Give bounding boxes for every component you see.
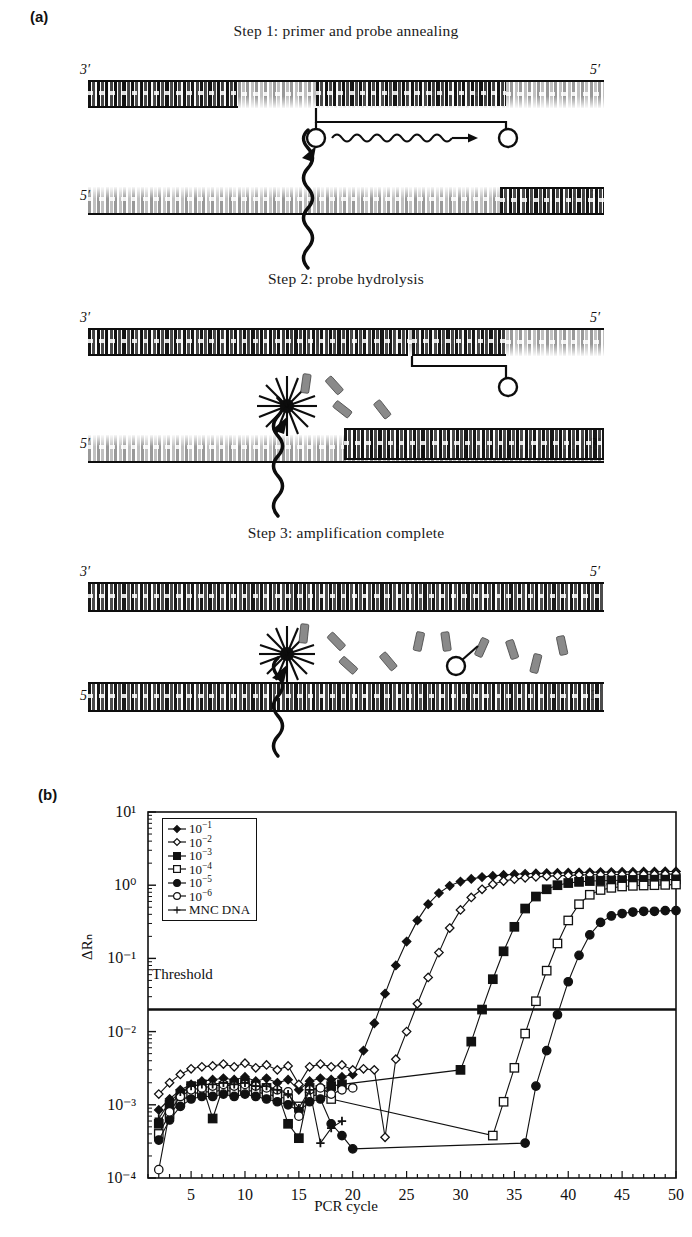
data-point-marker: [155, 1136, 163, 1144]
data-point-marker: [262, 1095, 270, 1103]
data-point-marker: [241, 1059, 249, 1067]
data-point-marker: [230, 1063, 238, 1071]
data-point-marker: [187, 1065, 195, 1073]
step-3-title: Step 3: amplification complete: [0, 524, 692, 542]
data-point-marker: [564, 879, 572, 887]
data-point-marker: [359, 1065, 367, 1073]
data-point-marker: [155, 1165, 163, 1173]
data-point-marker: [198, 1063, 206, 1071]
data-point-marker: [532, 997, 540, 1005]
free-quencher-icon: [447, 646, 478, 675]
data-point-marker: [575, 951, 583, 959]
step-2-title: Step 2: probe hydrolysis: [0, 270, 692, 288]
data-point-marker: [446, 924, 454, 932]
data-point-marker: [553, 939, 561, 947]
data-point-marker: [478, 1005, 486, 1013]
threshold-label: Threshold: [152, 966, 213, 983]
legend-item-7[interactable]: MNC DNA: [167, 903, 250, 917]
data-point-marker: [424, 973, 432, 981]
step-3-canvas: 3′ 5′ 5′ 3′: [0, 542, 692, 757]
data-point-marker: [316, 1139, 324, 1147]
series-legend: 10−110−210−310−410−510−6MNC DNA: [162, 818, 257, 921]
data-point-marker: [316, 1074, 324, 1082]
legend-item-label: 10−6: [187, 890, 212, 903]
data-point-marker: [586, 877, 594, 885]
data-point-marker: [672, 906, 680, 914]
data-point-marker: [273, 1098, 281, 1106]
data-point-marker: [435, 948, 443, 956]
step-1-overlay: [0, 40, 692, 270]
legend-marker-filled-square: [167, 850, 187, 862]
y-tick-label: 10⁻¹: [107, 949, 136, 966]
data-point-marker: [165, 1108, 173, 1116]
data-point-marker: [489, 1131, 497, 1139]
data-point-marker: [370, 1066, 378, 1074]
data-point-marker: [327, 1063, 335, 1071]
series-line: [159, 911, 676, 1149]
data-point-marker: [650, 907, 658, 915]
data-point-marker: [208, 1092, 216, 1100]
step-3-overlay: [0, 542, 692, 757]
data-point-marker: [349, 1145, 357, 1153]
data-point-marker: [230, 1092, 238, 1100]
data-point-marker: [392, 1055, 400, 1063]
plot-canvas: 510152025303540455010⁻⁴10⁻³10⁻²10⁻¹10⁰10…: [0, 770, 692, 1237]
amplification-plot: PCR cycle ΔRₙ Threshold 10−110−210−310−4…: [0, 770, 692, 1237]
data-point-marker: [208, 1114, 216, 1122]
legend-marker-wrap: [167, 890, 187, 902]
data-point-marker: [273, 1066, 281, 1074]
data-point-marker: [456, 877, 464, 885]
data-point-marker: [510, 1064, 518, 1072]
data-point-marker: [639, 881, 647, 889]
y-axis-title: ΔRₙ: [78, 934, 96, 960]
data-point-marker: [532, 892, 540, 900]
data-point-marker: [596, 886, 604, 894]
data-point-marker: [262, 1061, 270, 1069]
data-point-marker: [338, 1117, 346, 1125]
data-point-marker: [542, 885, 550, 893]
data-point-marker: [284, 1120, 292, 1128]
data-point-marker: [521, 1139, 529, 1147]
data-point-marker: [586, 891, 594, 899]
data-point-marker: [219, 1060, 227, 1068]
quencher-dye-icon: [499, 129, 517, 147]
data-point-marker: [381, 1133, 389, 1141]
data-point-marker: [661, 906, 669, 914]
data-point-marker: [629, 882, 637, 890]
data-point-marker: [413, 1000, 421, 1008]
data-point-marker: [219, 1090, 227, 1098]
data-point-marker: [499, 877, 507, 885]
data-point-marker: [262, 1074, 270, 1082]
data-point-marker: [176, 1102, 184, 1110]
data-point-marker: [187, 1095, 195, 1103]
step-1-canvas: 3′ 5′ 5′ 3′: [0, 40, 692, 270]
data-point-marker: [586, 931, 594, 939]
data-point-marker: [542, 966, 550, 974]
data-point-marker: [489, 880, 497, 888]
legend-marker-filled-circle: [167, 877, 187, 889]
legend-exponent: −1: [202, 820, 212, 830]
data-point-marker: [316, 1095, 324, 1103]
legend-marker-wrap: [167, 823, 187, 835]
data-point-marker: [349, 1084, 357, 1092]
data-point-marker: [359, 1046, 367, 1054]
legend-item-label: MNC DNA: [187, 903, 250, 916]
data-point-marker: [338, 1131, 346, 1139]
legend-item-6[interactable]: 10−6: [167, 890, 250, 904]
data-point-marker: [467, 1037, 475, 1045]
legend-exponent: −6: [202, 887, 212, 897]
data-point-marker: [596, 877, 604, 885]
legend-marker-open-square: [167, 863, 187, 875]
legend-marker-wrap: [167, 836, 187, 848]
data-point-marker: [198, 1092, 206, 1100]
step-2-diagram: Step 2: probe hydrolysis 3′ 5′ 5′ 3′: [0, 270, 692, 518]
data-point-marker: [241, 1090, 249, 1098]
data-point-marker: [510, 923, 518, 931]
data-point-marker: [316, 1060, 324, 1068]
data-point-marker: [381, 989, 389, 997]
data-point-marker: [305, 1063, 313, 1071]
data-point-marker: [370, 1019, 378, 1027]
data-point-marker: [499, 1098, 507, 1106]
data-point-marker: [327, 1082, 335, 1090]
data-point-marker: [478, 873, 486, 881]
